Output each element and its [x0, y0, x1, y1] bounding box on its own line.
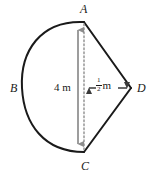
fraction-numerator: 1 [96, 77, 102, 84]
dimension-label-height: 4 m [54, 82, 71, 93]
vertex-label-c: C [81, 160, 89, 172]
vertex-label-d: D [137, 82, 146, 94]
edge-dc [84, 88, 131, 152]
dimension-unit-width: m [103, 80, 112, 91]
dimension-label-width: 1 2 m [96, 77, 111, 93]
fraction-one-half: 1 2 [96, 77, 102, 93]
geometry-figure: A B C D 4 m 1 2 m [0, 0, 152, 178]
vertex-label-a: A [80, 3, 87, 15]
vertex-label-b: B [10, 82, 17, 94]
figure-canvas [0, 0, 152, 178]
arc-abc [22, 22, 84, 152]
fraction-denominator: 2 [96, 86, 102, 93]
